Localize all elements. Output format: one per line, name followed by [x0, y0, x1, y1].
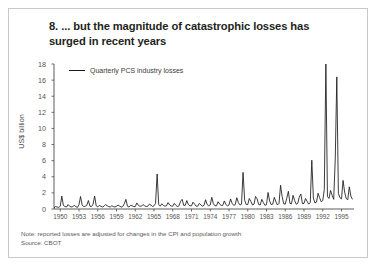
legend-label: Quarterly PCS industry losses — [90, 67, 183, 74]
y-tick-label: 0 — [30, 206, 46, 213]
footnote-source: Source: CBOT — [21, 238, 241, 247]
footnote-note: Note: reported losses are adjusted for c… — [21, 229, 241, 238]
figure-footnote: Note: reported losses are adjusted for c… — [21, 229, 241, 247]
y-tick-label: 10 — [30, 125, 46, 132]
chart-legend: Quarterly PCS industry losses — [69, 67, 183, 74]
series-line-quarterly-pcs-industry-losses — [54, 64, 352, 208]
y-tick-label: 14 — [30, 93, 46, 100]
legend-line-icon — [69, 70, 85, 71]
y-tick-label: 12 — [30, 109, 46, 116]
y-tick-label: 4 — [30, 173, 46, 180]
chart-canvas — [9, 9, 369, 259]
y-axis-label: US$ billion — [17, 102, 26, 162]
figure-frame: 8. ... but the magnitude of catastrophic… — [8, 8, 368, 258]
y-tick-label: 8 — [30, 141, 46, 148]
y-tick-label: 18 — [30, 61, 46, 68]
y-tick-label: 6 — [30, 157, 46, 164]
y-tick-label: 16 — [30, 77, 46, 84]
y-tick-label: 2 — [30, 189, 46, 196]
plot-area: US$ billion 024681012141618 195019531956… — [9, 9, 369, 259]
x-tick-label: 1995 — [330, 213, 354, 220]
